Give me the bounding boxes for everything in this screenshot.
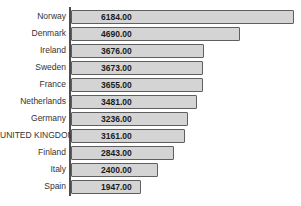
chart-rows: Norway6184.00Denmark4690.00Ireland3676.0…: [0, 8, 301, 195]
category-label: Finland: [0, 144, 69, 161]
bar: 3481.00: [71, 95, 197, 109]
category-label: Netherlands: [0, 93, 69, 110]
bar: 3676.00: [71, 44, 204, 58]
bar-row: UNITED KINGDOM3161.00: [0, 127, 301, 144]
category-label: Sweden: [0, 59, 69, 76]
bar-row: Netherlands3481.00: [0, 93, 301, 110]
category-label: Denmark: [0, 25, 69, 42]
bar-row: Denmark4690.00: [0, 25, 301, 42]
bar: 3236.00: [71, 112, 188, 126]
value-label: 2843.00: [101, 148, 132, 158]
bar: 3673.00: [71, 61, 203, 75]
bar-row: Italy2400.00: [0, 161, 301, 178]
bar-row: Germany3236.00: [0, 110, 301, 127]
value-label: 3161.00: [101, 131, 132, 141]
value-label: 3673.00: [101, 63, 132, 73]
category-label: Germany: [0, 110, 69, 127]
value-label: 1947.00: [101, 182, 132, 192]
value-label: 3655.00: [101, 80, 132, 90]
bar-row: Ireland3676.00: [0, 42, 301, 59]
bar-row: Spain1947.00: [0, 178, 301, 195]
bar: 2843.00: [71, 146, 174, 160]
value-label: 3236.00: [101, 114, 132, 124]
bar: 2400.00: [71, 163, 158, 177]
bar: 6184.00: [71, 10, 294, 24]
category-label: France: [0, 76, 69, 93]
bar: 4690.00: [71, 27, 240, 41]
bar-chart: Norway6184.00Denmark4690.00Ireland3676.0…: [0, 0, 301, 206]
category-label: Spain: [0, 178, 69, 195]
value-label: 3676.00: [101, 46, 132, 56]
category-label: UNITED KINGDOM: [0, 127, 69, 144]
value-label: 6184.00: [101, 12, 132, 22]
value-label: 4690.00: [101, 29, 132, 39]
bar: 3161.00: [71, 129, 185, 143]
bar-row: Norway6184.00: [0, 8, 301, 25]
category-label: Italy: [0, 161, 69, 178]
value-label: 2400.00: [101, 165, 132, 175]
value-label: 3481.00: [101, 97, 132, 107]
bar-row: Sweden3673.00: [0, 59, 301, 76]
bar-row: France3655.00: [0, 76, 301, 93]
category-label: Ireland: [0, 42, 69, 59]
category-label: Norway: [0, 8, 69, 25]
bar-row: Finland2843.00: [0, 144, 301, 161]
bar: 1947.00: [71, 180, 141, 194]
bar: 3655.00: [71, 78, 203, 92]
